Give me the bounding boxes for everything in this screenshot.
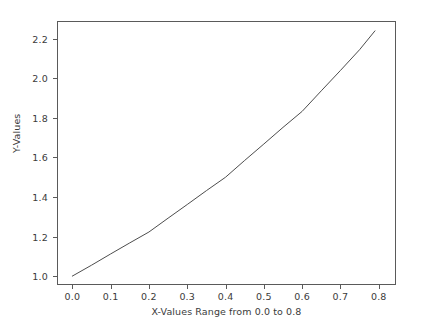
x-tick-label: 0.7: [333, 291, 349, 302]
y-tick-mark: [53, 118, 57, 119]
y-tick-label: 1.4: [32, 192, 48, 203]
x-tick-mark: [264, 285, 265, 289]
x-tick-label: 0.8: [371, 291, 387, 302]
y-tick-mark: [53, 39, 57, 40]
x-tick-label: 0.4: [218, 291, 234, 302]
x-tick-mark: [340, 285, 341, 289]
x-tick-label: 0.3: [179, 291, 195, 302]
line-chart-plot-area: [57, 21, 396, 285]
x-tick-mark: [111, 285, 112, 289]
y-tick-label: 2.2: [32, 33, 48, 44]
y-tick-label: 1.8: [32, 112, 48, 123]
x-tick-label: 0.5: [256, 291, 272, 302]
figure-canvas: 0.00.10.20.30.40.50.60.70.8 1.01.21.41.6…: [0, 0, 422, 330]
x-tick-mark: [302, 285, 303, 289]
x-tick-label: 0.6: [294, 291, 310, 302]
y-tick-label: 1.0: [32, 271, 48, 282]
x-tick-mark: [226, 285, 227, 289]
x-tick-label: 0.0: [64, 291, 80, 302]
x-tick-mark: [379, 285, 380, 289]
x-tick-mark: [72, 285, 73, 289]
y-tick-mark: [53, 197, 57, 198]
x-tick-mark: [149, 285, 150, 289]
x-tick-label: 0.2: [141, 291, 157, 302]
x-tick-mark: [187, 285, 188, 289]
y-tick-label: 1.6: [32, 152, 48, 163]
y-tick-label: 2.0: [32, 73, 48, 84]
y-tick-label: 1.2: [32, 231, 48, 242]
y-axis-label: Y-Values: [11, 114, 22, 153]
y-tick-mark: [53, 78, 57, 79]
x-axis-label: X-Values Range from 0.0 to 0.8: [57, 306, 396, 317]
y-tick-mark: [53, 276, 57, 277]
y-tick-mark: [53, 157, 57, 158]
data-series-line: [72, 31, 375, 276]
y-tick-mark: [53, 237, 57, 238]
x-tick-label: 0.1: [103, 291, 119, 302]
